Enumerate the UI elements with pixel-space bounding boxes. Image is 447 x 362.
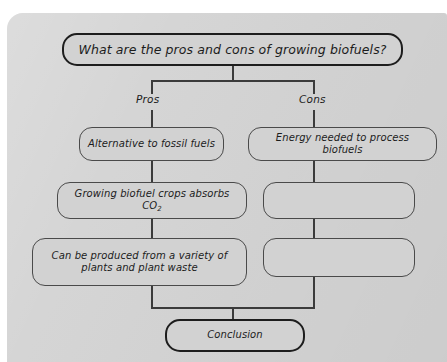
connector-to-cons-label [313,80,315,94]
pros-node-3-label-line1: Can be produced from a variety of [52,250,228,261]
cons-node-1-label: Energy needed to process biofuels [256,132,429,156]
conclusion-box[interactable]: Conclusion [165,319,305,352]
connector-split-bar [151,80,314,82]
title-box[interactable]: What are the pros and cons of growing bi… [62,33,403,66]
title-box-label: What are the pros and cons of growing bi… [71,42,394,57]
pros-node-2-subscript: 2 [157,205,162,213]
connector-cons-node-2-to-3 [313,219,315,238]
pros-node-1[interactable]: Alternative to fossil fuels [79,127,224,161]
diagram-canvas: What are the pros and cons of growing bi… [0,0,447,362]
connector-pros-node-2-to-3 [151,219,153,238]
branch-label-pros: Pros [136,93,159,105]
connector-to-pros-label [151,80,153,94]
pros-node-3[interactable]: Can be produced from a variety ofplants … [32,238,247,286]
pros-node-2-label: Growing biofuel crops absorbs CO [75,188,230,211]
connector-pros-label-to-node-1 [151,110,153,127]
connector-cons-label-to-node-1 [313,110,315,127]
cons-node-3[interactable] [263,238,415,277]
pros-node-2[interactable]: Growing biofuel crops absorbs CO2 [57,182,247,219]
connector-pros-node-1-to-2 [151,161,153,182]
connector-cons-node-1-to-2 [313,161,315,182]
connector-pros-node-3-to-merge [151,286,153,308]
conclusion-box-label: Conclusion [174,329,296,341]
connector-title-stem [232,66,234,81]
connector-cons-node-3-to-merge [313,277,315,308]
cons-node-2[interactable] [263,182,415,219]
pros-node-1-label: Alternative to fossil fuels [87,138,216,150]
branch-label-cons: Cons [299,93,326,105]
cons-node-1[interactable]: Energy needed to process biofuels [248,127,437,161]
pros-node-3-label-line2: plants and plant waste [81,262,197,273]
